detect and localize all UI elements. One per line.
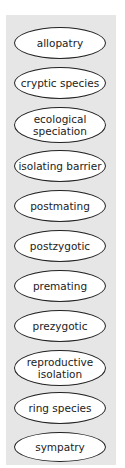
term-premating[interactable]: premating	[14, 270, 106, 302]
term-isolating-barrier[interactable]: isolating barrier	[14, 150, 106, 182]
term-ecological-speciation[interactable]: ecological speciation	[14, 107, 106, 143]
term-label: prezygotic	[33, 320, 88, 332]
term-label: postzygotic	[30, 240, 90, 252]
term-sympatry[interactable]: sympatry	[14, 432, 106, 462]
term-label: ring species	[28, 402, 91, 414]
term-postmating[interactable]: postmating	[14, 190, 106, 222]
term-label: allopatry	[37, 37, 83, 49]
term-label: isolating barrier	[18, 160, 101, 172]
term-label: premating	[33, 280, 87, 292]
term-prezygotic[interactable]: prezygotic	[14, 310, 106, 342]
term-cryptic-species[interactable]: cryptic species	[14, 67, 106, 99]
term-label: cryptic species	[21, 77, 99, 89]
term-ring-species[interactable]: ring species	[14, 392, 106, 424]
term-label: postmating	[30, 200, 90, 212]
term-label: reproductive isolation	[25, 356, 95, 380]
term-postzygotic[interactable]: postzygotic	[14, 230, 106, 262]
term-allopatry[interactable]: allopatry	[14, 27, 106, 59]
term-reproductive-isolation[interactable]: reproductive isolation	[14, 350, 106, 386]
term-label: ecological speciation	[30, 113, 90, 137]
term-label: sympatry	[35, 441, 85, 453]
